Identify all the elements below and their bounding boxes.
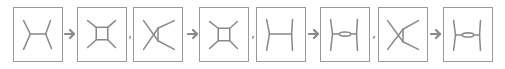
diagram-7-crossed <box>378 7 428 62</box>
box-loop-icon <box>78 8 126 61</box>
arrow-right-icon <box>64 28 76 40</box>
box-loop-icon <box>200 8 248 61</box>
crossed-triangle-icon <box>134 8 182 61</box>
diagram-8-bubble <box>443 7 493 62</box>
comma-separator: , <box>372 28 376 40</box>
diagram-2-box <box>77 7 127 62</box>
diagram-4-box <box>199 7 249 62</box>
diagram-3-crossed <box>133 7 183 62</box>
comma-separator: , <box>128 28 132 40</box>
diagram-6-bubble <box>320 7 370 62</box>
arrow-right-icon <box>308 28 320 40</box>
arrow-right-icon <box>187 28 199 40</box>
diagram-1-tree <box>13 7 63 62</box>
comma-separator: , <box>251 28 255 40</box>
bubble-loop-icon <box>321 8 369 61</box>
tree-h-vertical-icon <box>257 8 305 61</box>
diagram-5-tree <box>256 7 306 62</box>
arrow-right-icon <box>430 28 442 40</box>
bubble-loop-icon <box>444 8 492 61</box>
crossed-triangle-icon <box>379 8 427 61</box>
tree-h-icon <box>14 8 62 61</box>
